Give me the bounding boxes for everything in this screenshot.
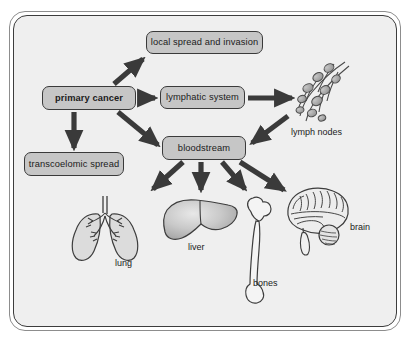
node-bloodstream[interactable]: bloodstream [162,136,246,160]
liver-icon [164,200,237,240]
arrow-primary-to-bloodstream [118,112,158,145]
caption-lymph-nodes: lymph nodes [291,127,342,137]
caption-bones: bones [253,278,278,288]
arrow-primary-to-local [114,59,143,84]
lymph-nodes-icon [295,62,349,122]
arrow-lymphnodes-to-bloodstream [252,116,288,143]
node-primary-cancer[interactable]: primary cancer [42,86,136,110]
diagram-page: local spread and invasion primary cancer… [0,0,412,343]
arrow-bloodstream-to-brain [240,162,284,190]
caption-brain: brain [350,222,370,232]
caption-liver: liver [188,242,205,252]
lung-icon [72,196,138,260]
brain-icon [288,188,348,255]
arrow-bloodstream-to-lung [153,162,183,189]
node-local-spread-and-invasion[interactable]: local spread and invasion [146,31,263,54]
node-transcoelomic-spread[interactable]: transcoelomic spread [24,152,124,176]
node-lymphatic-system[interactable]: lymphatic system [160,86,245,109]
caption-lung: lung [115,258,132,268]
